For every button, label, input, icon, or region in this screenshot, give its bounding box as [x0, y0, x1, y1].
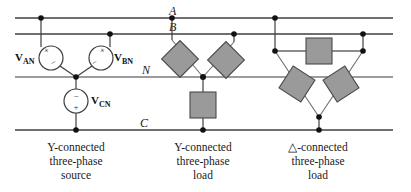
caption-deltaload-line3: load: [308, 169, 328, 181]
deltaload-impedance-ac: [279, 66, 315, 102]
yload-impedance-c: [190, 92, 216, 118]
node-deltaload-bus-c: [316, 127, 322, 133]
caption-source-line1: Y-connected: [47, 141, 105, 153]
node-deltaload-vertex-a: [272, 48, 278, 54]
vcn-plus-sign: +: [73, 102, 78, 112]
bus-label-n: N: [141, 63, 151, 77]
van-label: VAN: [15, 51, 35, 66]
node-yload-c: [200, 127, 206, 133]
bus-label-b: B: [169, 20, 177, 34]
node-yload-star: [200, 74, 206, 80]
bus-label-c: C: [140, 116, 149, 130]
captions: Y-connected three-phase source Y-connect…: [47, 141, 348, 181]
vbn-lead-bottom: [76, 66, 92, 77]
vcn-minus-sign: −: [73, 91, 78, 101]
node-source-a: [38, 15, 44, 21]
van-lead-bottom: [60, 66, 76, 77]
yload-impedance-a: [162, 41, 199, 78]
y-connected-source: + − VAN + − VBN − + VCN: [15, 15, 133, 133]
node-deltaload-bus-a: [272, 15, 278, 21]
node-deltaload-vertex-b: [360, 48, 366, 54]
node-deltaload-bus-b: [360, 31, 366, 37]
caption-yload-line1: Y-connected: [174, 141, 232, 153]
delta-connected-load: [272, 15, 366, 133]
node-deltaload-vertex-c: [316, 114, 322, 120]
vcn-label: VCN: [91, 94, 111, 109]
node-yload-a: [169, 15, 175, 21]
deltaload-impedance-ab: [306, 38, 332, 64]
vbn-label: VBN: [114, 51, 133, 66]
node-source-b: [107, 31, 113, 37]
caption-deltaload-line1: △-connected: [288, 141, 348, 153]
caption-source-line2: three-phase: [50, 155, 103, 168]
caption-source-line3: source: [61, 169, 91, 181]
yload-impedance-b: [208, 42, 245, 79]
node-source-neutral: [73, 74, 79, 80]
deltaload-impedance-bc: [323, 66, 359, 102]
node-source-c: [73, 127, 79, 133]
circuit-diagram: A B N C + − VAN + − VBN: [0, 0, 411, 192]
caption-yload-line3: load: [193, 169, 213, 181]
caption-deltaload-line2: three-phase: [292, 155, 345, 168]
caption-yload-line2: three-phase: [177, 155, 230, 168]
circuit-svg: A B N C + − VAN + − VBN: [0, 0, 411, 192]
node-yload-b: [231, 31, 237, 37]
